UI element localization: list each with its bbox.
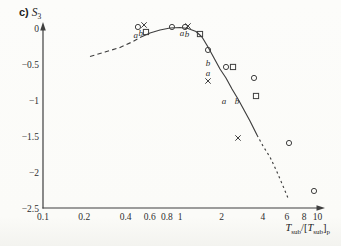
data-marker-cross (141, 22, 146, 27)
curve-label-b: b (185, 29, 190, 39)
curve-label-a: a (206, 68, 211, 78)
x-label-psub: p (327, 228, 331, 236)
x-tick-label: 10 (313, 212, 323, 222)
data-marker-circle (251, 75, 256, 80)
fitted-curve-dashed (257, 135, 288, 198)
x-tick-label: 6 (285, 212, 290, 222)
fitted-curve-solid (140, 28, 257, 136)
y-axis-arrow-icon (40, 22, 46, 31)
data-marker-cross (205, 78, 210, 83)
y-tick-label: −2 (29, 168, 39, 178)
data-marker-square (253, 93, 258, 98)
chart-canvas: 0.10.20.40.60.812468100−0.5−1−1.5−2−2.5a… (0, 0, 341, 246)
fitted-curve-dashed (90, 38, 140, 57)
y-tick-label: −2.5 (22, 204, 39, 214)
data-marker-circle (223, 64, 228, 69)
y-tick-label: −0.5 (22, 60, 39, 70)
x-axis-arrow-icon (317, 205, 326, 210)
y-tick-label: 0 (34, 24, 39, 34)
data-marker-circle (311, 188, 316, 193)
x-tick-label: 0.6 (144, 212, 156, 222)
curve-label-a: a (222, 96, 227, 106)
data-marker-circle (286, 140, 291, 145)
x-tick-label: 1 (178, 212, 183, 222)
x-tick-label: 4 (260, 212, 265, 222)
data-marker-square (230, 64, 235, 69)
data-marker-circle (169, 24, 174, 29)
curve-label-b: b (235, 96, 240, 106)
x-tick-label: 0.2 (78, 212, 90, 222)
x-axis-label: Tsub/[Tsub]p (285, 222, 330, 236)
y-tick-label: −1.5 (22, 132, 39, 142)
x-label-sub2: sub (313, 228, 323, 236)
x-label-sub1: sub (291, 228, 301, 236)
x-tick-label: 2 (219, 212, 224, 222)
curve-label-b: b (138, 28, 143, 38)
y-tick-label: −1 (29, 96, 39, 106)
data-marker-cross (235, 135, 240, 140)
scatter-figure-panel-c: c)S3 0.10.20.40.60.812468100−0.5−1−1.5−2… (0, 0, 341, 246)
x-tick-label: 8 (302, 212, 307, 222)
x-tick-label: 0.4 (120, 212, 132, 222)
x-tick-label: 0.8 (161, 212, 173, 222)
curve-label-b: b (206, 58, 211, 68)
